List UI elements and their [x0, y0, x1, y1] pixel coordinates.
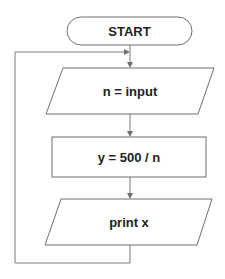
output-io-node: print x	[45, 199, 212, 245]
arrowhead-down-icon	[127, 193, 133, 199]
flowchart: START n = input y = 500 / n print x	[0, 0, 225, 279]
start-terminal: START	[67, 17, 192, 45]
input-io-node: n = input	[46, 68, 214, 114]
output-label: print x	[109, 215, 149, 230]
process-label: y = 500 / n	[98, 150, 161, 165]
arrowhead-down-icon	[127, 131, 133, 137]
input-label: n = input	[103, 84, 158, 99]
loop-arrowhead-icon	[124, 49, 130, 55]
process-node: y = 500 / n	[52, 137, 206, 177]
start-label: START	[108, 24, 150, 39]
arrowhead-down-icon	[127, 62, 133, 68]
